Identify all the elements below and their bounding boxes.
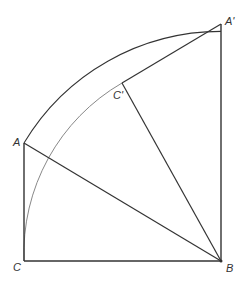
label-A-prime: A' — [224, 15, 235, 27]
arc-A-to-A-prime — [24, 31, 221, 143]
segment-C-prime-B — [122, 83, 221, 261]
label-A: A — [12, 136, 20, 148]
segment-A-prime-C-prime — [122, 24, 221, 83]
vertex-B-dot — [220, 260, 223, 263]
rotation-diagram: A C B A' C' — [0, 0, 243, 285]
label-C: C — [13, 261, 21, 273]
label-C-prime: C' — [113, 89, 124, 101]
label-B: B — [226, 262, 233, 274]
segment-AB — [24, 143, 221, 261]
